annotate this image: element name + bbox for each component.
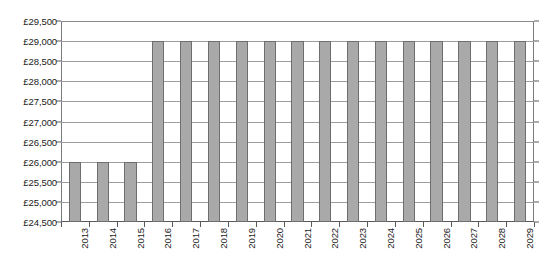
y-axis-tickmark bbox=[534, 181, 539, 182]
plot-area bbox=[61, 21, 534, 222]
x-axis-tickmark bbox=[89, 222, 90, 227]
y-axis-tickmark bbox=[534, 161, 539, 162]
x-axis-tick-label: 2022 bbox=[329, 228, 340, 249]
x-axis-tickmark bbox=[534, 222, 535, 227]
y-axis-tickmark bbox=[534, 121, 539, 122]
y-axis-tickmark bbox=[534, 141, 539, 142]
y-axis-tickmark bbox=[534, 41, 539, 42]
x-axis-tickmark bbox=[144, 222, 145, 227]
chart-title bbox=[0, 0, 554, 1]
x-axis-tickmark bbox=[506, 222, 507, 227]
x-axis-tick-label: 2020 bbox=[274, 228, 285, 249]
x-axis-tick-label: 2024 bbox=[385, 228, 396, 249]
x-axis-tickmark bbox=[451, 222, 452, 227]
x-axis-tickmark bbox=[256, 222, 257, 227]
y-axis-tick-label: £27,500 bbox=[23, 96, 57, 107]
y-axis-tickmark bbox=[534, 21, 539, 22]
x-axis-tickmark bbox=[395, 222, 396, 227]
bar bbox=[514, 41, 526, 222]
x-axis-tickmark bbox=[284, 222, 285, 227]
x-axis-tick-label: 2025 bbox=[413, 228, 424, 249]
x-axis-tickmark bbox=[311, 222, 312, 227]
y-axis-tick-label: £25,000 bbox=[23, 196, 57, 207]
y-axis-tickmark bbox=[534, 81, 539, 82]
bar-chart: £29,500£29,000£28,500£28,000£27,500£27,0… bbox=[0, 0, 554, 268]
x-axis-tick-label: 2016 bbox=[162, 228, 173, 249]
x-axis-tickmark bbox=[228, 222, 229, 227]
bar bbox=[69, 162, 81, 222]
x-axis-tick-label: 2017 bbox=[190, 228, 201, 249]
bar bbox=[486, 41, 498, 222]
y-axis-tick-label: £28,500 bbox=[23, 56, 57, 67]
x-axis-tickmark bbox=[339, 222, 340, 227]
x-axis-tick-label: 2026 bbox=[441, 228, 452, 249]
x-axis-tick-label: 2028 bbox=[496, 228, 507, 249]
bar bbox=[403, 41, 415, 222]
y-axis-tick-label: £25,500 bbox=[23, 176, 57, 187]
y-axis-tickmark bbox=[534, 101, 539, 102]
x-axis-tick-label: 2018 bbox=[218, 228, 229, 249]
bar bbox=[208, 41, 220, 222]
y-axis-tick-label: £26,500 bbox=[23, 136, 57, 147]
x-axis-tickmark bbox=[367, 222, 368, 227]
x-axis-tick-label: 2023 bbox=[357, 228, 368, 249]
x-axis-tick-label: 2014 bbox=[107, 228, 118, 249]
bar bbox=[458, 41, 470, 222]
x-axis-tickmark bbox=[478, 222, 479, 227]
y-axis-tick-label: £27,000 bbox=[23, 116, 57, 127]
x-axis-tickmark bbox=[172, 222, 173, 227]
x-axis-tickmark bbox=[61, 222, 62, 227]
bar bbox=[97, 162, 109, 222]
bar bbox=[236, 41, 248, 222]
bar bbox=[124, 162, 136, 222]
x-axis-labels: 2013201420152016201720182019202020212022… bbox=[61, 228, 534, 268]
x-axis-tick-label: 2027 bbox=[468, 228, 479, 249]
x-axis-tick-label: 2029 bbox=[524, 228, 535, 249]
y-axis-tick-label: £24,500 bbox=[23, 217, 57, 228]
y-axis-tickmark bbox=[534, 201, 539, 202]
bar-series bbox=[61, 21, 534, 222]
y-axis-tick-label: £26,000 bbox=[23, 156, 57, 167]
y-axis-tick-label: £28,000 bbox=[23, 76, 57, 87]
bar bbox=[430, 41, 442, 222]
bar bbox=[152, 41, 164, 222]
x-axis-tickmark bbox=[200, 222, 201, 227]
bar bbox=[180, 41, 192, 222]
x-axis-tick-label: 2013 bbox=[79, 228, 90, 249]
bar bbox=[375, 41, 387, 222]
bar bbox=[319, 41, 331, 222]
y-axis-tick-label: £29,500 bbox=[23, 16, 57, 27]
x-axis-tick-label: 2015 bbox=[135, 228, 146, 249]
y-axis-tickmark bbox=[534, 61, 539, 62]
x-axis-tickmark bbox=[117, 222, 118, 227]
x-axis-tick-label: 2021 bbox=[302, 228, 313, 249]
bar bbox=[291, 41, 303, 222]
x-axis-tick-label: 2019 bbox=[246, 228, 257, 249]
bar bbox=[264, 41, 276, 222]
x-axis-tickmark bbox=[423, 222, 424, 227]
y-axis-tick-label: £29,000 bbox=[23, 36, 57, 47]
bar bbox=[347, 41, 359, 222]
